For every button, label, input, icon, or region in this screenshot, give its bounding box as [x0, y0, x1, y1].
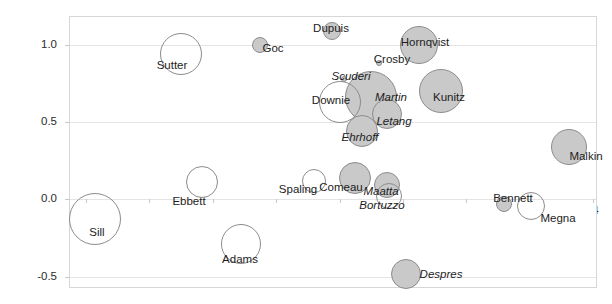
- data-point-bubble[interactable]: [496, 196, 512, 212]
- data-point-bubble[interactable]: [302, 169, 326, 193]
- data-point-bubble[interactable]: [69, 193, 121, 245]
- data-point-bubble[interactable]: [551, 129, 587, 165]
- y-axis-tick-label: -0.5: [0, 270, 57, 282]
- plot-area: DupuisHornqvistGocSutterCrosbyScuderiKun…: [69, 16, 597, 288]
- y-axis-tick-label: 1.0: [0, 38, 57, 50]
- x-axis-tick: [340, 199, 341, 203]
- data-point-label: Despres: [420, 268, 463, 280]
- gridline: [70, 45, 596, 46]
- y-axis-tick-label: 0.5: [0, 115, 57, 127]
- data-point-bubble[interactable]: [400, 26, 438, 64]
- data-point-bubble[interactable]: [323, 22, 341, 40]
- data-point-bubble[interactable]: [186, 166, 218, 198]
- y-axis-tick: [65, 199, 70, 200]
- data-point-bubble[interactable]: [339, 162, 371, 194]
- data-point-bubble[interactable]: [419, 69, 463, 113]
- y-axis-tick: [65, 122, 70, 123]
- data-point-bubble[interactable]: [391, 259, 421, 289]
- data-point-label: Megna: [540, 212, 575, 224]
- scatter-chart: Quality of Competition 1.00.50.0-0.5 323…: [0, 0, 612, 304]
- data-point-bubble[interactable]: [221, 224, 261, 264]
- data-point-bubble[interactable]: [346, 115, 378, 147]
- data-point-bubble[interactable]: [517, 192, 545, 220]
- y-axis-tick: [65, 277, 70, 278]
- x-axis-tick: [403, 199, 404, 203]
- x-axis-tick: [149, 199, 150, 203]
- data-point-bubble[interactable]: [376, 183, 402, 209]
- data-point-bubble[interactable]: [160, 33, 202, 75]
- gridline: [70, 277, 596, 278]
- data-point-bubble[interactable]: [376, 60, 382, 66]
- data-point-bubble[interactable]: [252, 37, 268, 53]
- x-axis-tick: [213, 199, 214, 203]
- y-axis-tick-label: 0.0: [0, 192, 57, 204]
- x-axis-tick: [593, 199, 594, 203]
- x-axis-tick: [276, 199, 277, 203]
- x-axis-tick: [466, 199, 467, 203]
- y-axis-tick: [65, 45, 70, 46]
